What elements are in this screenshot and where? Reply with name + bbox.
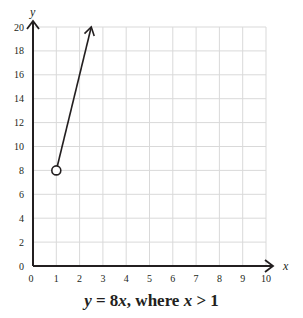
y-tick-label: 4 (19, 213, 24, 224)
x-tick-label: 10 (261, 273, 271, 284)
x-tick-label: 5 (147, 273, 152, 284)
open-circle-marker (52, 166, 61, 175)
y-tick-label: 2 (19, 237, 24, 248)
title-var-x: x (118, 291, 127, 310)
title-var-x2: x (184, 291, 193, 310)
x-tick-label: 8 (217, 273, 222, 284)
x-tick-label: 7 (194, 273, 199, 284)
y-tick-label: 6 (19, 189, 24, 200)
chart-plot: 012345678910 02468101214161820 x y (0, 0, 303, 285)
y-tick-label: 16 (14, 69, 24, 80)
x-axis-label: x (282, 259, 289, 273)
x-tick-label: 9 (240, 273, 245, 284)
chart-title: y = 8x, where x > 1 (0, 291, 303, 311)
x-tick-label: 3 (100, 273, 105, 284)
y-axis-label: y (29, 5, 36, 19)
y-tick-labels: 02468101214161820 (14, 22, 24, 272)
y-tick-label: 0 (19, 261, 24, 272)
y-tick-label: 20 (14, 22, 24, 33)
x-tick-labels: 012345678910 (29, 273, 272, 284)
x-tick-label: 6 (170, 273, 175, 284)
x-tick-label: 0 (29, 273, 34, 284)
y-tick-label: 8 (19, 165, 24, 176)
title-eq: = 8 (92, 291, 119, 310)
series-line (57, 27, 91, 166)
y-tick-label: 12 (14, 117, 24, 128)
title-where: , where (127, 291, 184, 310)
title-var-y: y (84, 291, 92, 310)
x-tick-label: 4 (124, 273, 129, 284)
data-series (52, 27, 94, 175)
y-tick-label: 10 (14, 141, 24, 152)
y-tick-label: 14 (14, 93, 24, 104)
y-tick-label: 18 (14, 45, 24, 56)
x-tick-label: 2 (77, 273, 82, 284)
title-condition: > 1 (192, 291, 219, 310)
grid-lines (33, 27, 266, 266)
x-tick-label: 1 (54, 273, 59, 284)
